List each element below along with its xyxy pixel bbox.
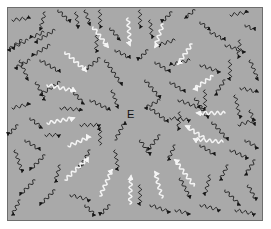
black-squiggle-arrow <box>95 35 99 52</box>
black-squiggle-arrow <box>30 118 42 128</box>
black-squiggle-arrow <box>84 10 90 25</box>
black-squiggle-arrow <box>200 65 220 73</box>
black-squiggle-arrow <box>100 205 110 215</box>
black-squiggle-arrow <box>32 44 50 56</box>
black-squiggle-arrow <box>55 165 61 182</box>
black-squiggle-arrow <box>212 122 228 140</box>
black-squiggle-arrow <box>114 150 119 170</box>
black-squiggle-arrow <box>12 17 30 21</box>
black-squiggle-arrow <box>58 10 70 22</box>
black-squiggle-arrow <box>14 150 22 172</box>
black-squiggle-arrow <box>15 59 30 68</box>
black-squiggle-arrow <box>138 185 141 205</box>
black-squiggle-arrow <box>150 205 170 213</box>
black-squiggle-arrow <box>90 100 110 110</box>
white-squiggle-arrow <box>155 172 163 198</box>
white-squiggle-arrow <box>197 111 225 114</box>
black-squiggle-arrow <box>215 80 225 95</box>
black-squiggle-arrow <box>25 140 40 150</box>
black-squiggle-arrow <box>185 10 195 18</box>
black-squiggle-arrow <box>138 50 148 60</box>
black-squiggle-arrow <box>247 185 256 200</box>
black-squiggle-arrow <box>111 90 119 108</box>
black-squiggle-arrow <box>138 10 141 28</box>
black-squiggle-arrow <box>158 39 175 46</box>
black-squiggle-arrow <box>150 108 168 122</box>
white-squiggle-arrow <box>68 137 90 147</box>
black-squiggle-arrow <box>70 195 90 201</box>
black-squiggle-arrow <box>230 11 248 16</box>
black-squiggle-arrow <box>30 155 45 170</box>
black-squiggle-arrow <box>85 205 95 215</box>
white-squiggle-arrow <box>47 84 75 91</box>
black-squiggle-arrow <box>249 60 258 80</box>
black-squiggle-arrow <box>203 90 206 110</box>
black-squiggle-arrow <box>162 12 172 22</box>
black-squiggle-arrow <box>98 128 101 145</box>
black-squiggle-arrow <box>98 10 101 28</box>
black-squiggle-arrow <box>225 45 245 53</box>
black-squiggle-arrow <box>60 107 82 111</box>
white-squiggle-arrow <box>65 158 88 180</box>
black-squiggle-arrow <box>35 29 55 42</box>
black-squiggle-arrow <box>80 123 100 126</box>
white-squiggle-arrow <box>186 126 204 138</box>
white-squiggle-arrow <box>178 44 192 64</box>
white-squiggle-arrow <box>155 24 163 47</box>
black-squiggle-arrow <box>40 60 60 72</box>
black-squiggle-arrow <box>245 140 258 148</box>
black-squiggle-arrow <box>40 12 46 30</box>
black-squiggle-arrow <box>177 112 181 130</box>
black-squiggle-arrow <box>179 178 190 198</box>
black-squiggle-arrow <box>75 12 79 28</box>
black-squiggle-arrow <box>40 81 60 95</box>
black-squiggle-arrow <box>178 100 200 108</box>
black-squiggle-arrow <box>230 150 248 158</box>
black-squiggle-arrow <box>85 58 100 70</box>
black-squiggle-arrow <box>200 205 220 211</box>
black-squiggle-arrow <box>148 135 160 150</box>
white-squiggle-arrow <box>100 170 112 196</box>
black-squiggle-arrow <box>115 50 130 58</box>
black-squiggle-arrow <box>200 145 215 155</box>
black-squiggle-arrow <box>115 122 125 140</box>
diffusion-diagram: E <box>0 0 271 229</box>
black-squiggle-arrow <box>12 200 20 215</box>
black-squiggle-arrow <box>240 87 258 92</box>
white-squiggle-arrow <box>194 75 213 89</box>
black-squiggle-arrow <box>40 190 55 205</box>
black-squiggle-arrow <box>12 103 30 109</box>
white-squiggle-arrow <box>194 138 223 143</box>
black-squiggle-arrow <box>8 125 18 135</box>
black-squiggle-arrow <box>155 62 170 72</box>
white-squiggle-arrow <box>47 117 74 124</box>
black-squiggle-arrow <box>210 32 225 40</box>
black-squiggle-arrow <box>225 190 240 205</box>
black-squiggle-arrow <box>20 180 35 195</box>
enzyme-label: E <box>127 108 134 120</box>
white-squiggle-arrow <box>175 160 195 186</box>
white-squiggle-arrow <box>93 27 108 47</box>
black-squiggle-arrow <box>220 165 228 180</box>
black-squiggle-arrow <box>145 99 160 108</box>
black-squiggle-arrow <box>110 28 120 40</box>
black-squiggle-arrow <box>104 60 122 85</box>
black-squiggle-arrow <box>249 110 255 125</box>
black-squiggle-arrow <box>205 175 211 195</box>
black-squiggle-arrow <box>235 209 255 214</box>
black-squiggle-arrow <box>200 22 210 30</box>
white-squiggle-arrow <box>129 176 133 204</box>
black-squiggle-arrow <box>145 80 160 98</box>
white-squiggle-arrow <box>127 18 132 45</box>
black-squiggle-arrow <box>149 20 153 38</box>
black-squiggle-arrow <box>234 95 241 118</box>
black-squiggle-arrow <box>228 60 231 80</box>
black-squiggle-arrow <box>245 25 255 30</box>
black-squiggle-arrow <box>168 145 175 160</box>
black-squiggle-arrow <box>45 134 60 137</box>
black-squiggle-arrow <box>175 210 190 215</box>
black-squiggle-arrow <box>170 82 185 92</box>
black-squiggle-arrow <box>139 140 150 155</box>
black-squiggle-arrow <box>70 88 84 104</box>
white-squiggle-arrow <box>65 52 86 71</box>
